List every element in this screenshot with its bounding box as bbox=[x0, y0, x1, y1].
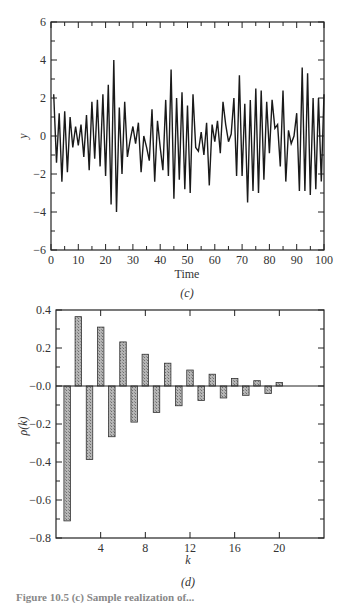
time-series-line bbox=[54, 60, 324, 212]
y-tick-label: 0 bbox=[40, 129, 46, 143]
y-axis-label: y bbox=[16, 133, 30, 140]
acf-bar-panel: 481216200.40.2−0.0−0.2−0.4−0.6−0.8 k ρ(k… bbox=[16, 303, 324, 589]
y-axis-label: ρ(k) bbox=[16, 416, 30, 436]
y-tick-label: −2 bbox=[33, 167, 46, 181]
y-tick-label: −0.6 bbox=[29, 493, 51, 507]
acf-bar bbox=[276, 383, 283, 386]
acf-bar bbox=[231, 378, 238, 386]
axis-ticks bbox=[51, 22, 324, 250]
acf-bar bbox=[142, 354, 149, 386]
x-tick-label: 20 bbox=[273, 541, 285, 555]
acf-bar bbox=[75, 317, 82, 386]
x-axis-label: Time bbox=[175, 267, 200, 281]
x-tick-label: 90 bbox=[291, 253, 303, 267]
axis-ticks bbox=[56, 310, 324, 538]
acf-bar bbox=[220, 386, 227, 398]
acf-bar bbox=[109, 386, 116, 437]
y-tick-label: −6 bbox=[33, 243, 46, 257]
x-tick-label: 40 bbox=[154, 253, 166, 267]
y-tick-label: 0.2 bbox=[36, 341, 51, 355]
acf-bar bbox=[164, 363, 171, 386]
acf-bar bbox=[153, 386, 160, 412]
acf-bar bbox=[120, 342, 127, 386]
x-tick-label: 60 bbox=[209, 253, 221, 267]
plot-frame bbox=[56, 310, 324, 538]
x-tick-label: 30 bbox=[127, 253, 139, 267]
acf-bar bbox=[187, 370, 194, 386]
x-tick-label: 100 bbox=[315, 253, 333, 267]
x-axis-label: k bbox=[185, 553, 191, 567]
y-tick-label: 0.4 bbox=[36, 303, 51, 317]
x-tick-label: 0 bbox=[48, 253, 54, 267]
figure: 0102030405060708090100−6−4−20246 Time y … bbox=[0, 0, 347, 603]
x-tick-label: 70 bbox=[236, 253, 248, 267]
y-tick-label: 2 bbox=[40, 91, 46, 105]
panel-label: (c) bbox=[180, 286, 193, 300]
acf-bars bbox=[64, 317, 283, 521]
x-tick-label: 80 bbox=[263, 253, 275, 267]
panel-label: (d) bbox=[181, 575, 195, 589]
y-tick-label: −0.2 bbox=[29, 417, 51, 431]
acf-bar bbox=[131, 386, 138, 422]
acf-bar bbox=[176, 386, 183, 406]
figure-caption: Figure 10.5 (c) Sample realization of... bbox=[16, 591, 194, 603]
time-series-panel: 0102030405060708090100−6−4−20246 Time y … bbox=[16, 15, 333, 300]
y-tick-label: −4 bbox=[33, 205, 46, 219]
acf-bar bbox=[209, 374, 216, 386]
x-tick-label: 16 bbox=[229, 541, 241, 555]
y-tick-label: 6 bbox=[40, 15, 46, 29]
y-tick-label: −0.0 bbox=[29, 379, 51, 393]
plot-frame bbox=[51, 22, 324, 250]
x-tick-label: 50 bbox=[182, 253, 194, 267]
y-tick-label: −0.8 bbox=[29, 531, 51, 545]
y-tick-label: −0.4 bbox=[29, 455, 51, 469]
acf-bar bbox=[265, 386, 272, 393]
acf-bar bbox=[243, 386, 250, 395]
x-tick-label: 8 bbox=[142, 541, 148, 555]
acf-bar bbox=[254, 381, 261, 386]
x-tick-label: 10 bbox=[72, 253, 84, 267]
acf-bar bbox=[86, 386, 93, 460]
acf-bar bbox=[64, 386, 71, 521]
x-tick-label: 4 bbox=[98, 541, 104, 555]
y-tick-label: 4 bbox=[40, 53, 46, 67]
acf-bar bbox=[97, 327, 104, 386]
acf-bar bbox=[198, 386, 205, 400]
x-tick-label: 20 bbox=[100, 253, 112, 267]
